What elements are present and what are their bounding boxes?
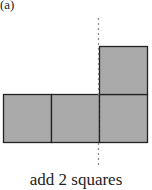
squares [4, 47, 148, 143]
square-3 [100, 95, 148, 143]
square-4 [100, 47, 148, 95]
figure-caption: add 2 squares [0, 170, 152, 190]
square-1 [4, 95, 52, 143]
polyomino-diagram [0, 0, 152, 190]
square-2 [52, 95, 100, 143]
